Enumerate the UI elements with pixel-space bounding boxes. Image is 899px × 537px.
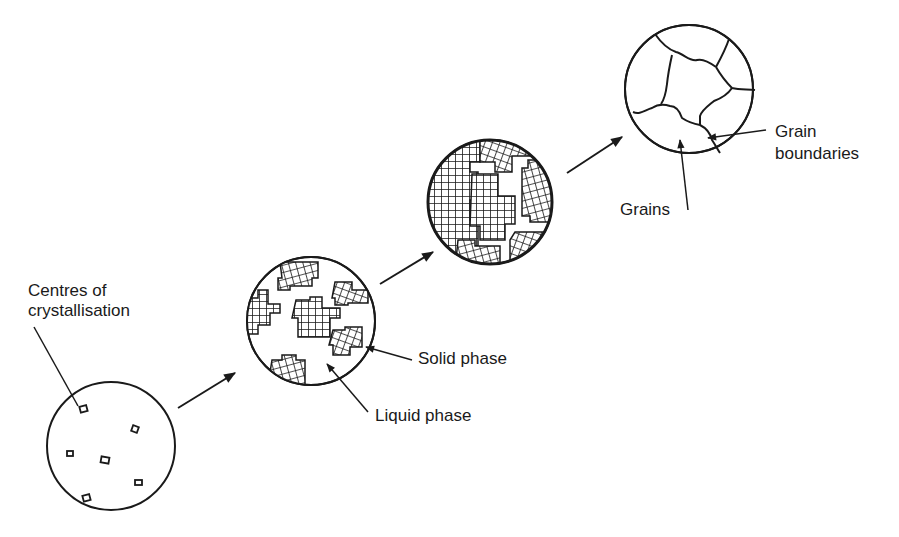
label-grains: Grains (620, 200, 670, 220)
arrow-stage1-to-2 (178, 373, 235, 408)
solid-phase-leader (366, 347, 412, 360)
stage-growth-circle (246, 257, 375, 385)
stage-impingement-circle (428, 140, 555, 270)
label-liquid-phase: Liquid phase (375, 406, 471, 426)
label-grain-line1: Grain (775, 122, 817, 142)
stage-nucleation-circle (47, 382, 175, 510)
arrow-stage3-to-4 (567, 137, 622, 173)
label-solid-phase: Solid phase (418, 349, 507, 369)
solidification-diagram (0, 0, 899, 537)
nuclei (67, 405, 142, 502)
label-centres-line1: Centres of (28, 281, 106, 301)
arrow-stage2-to-3 (380, 252, 433, 284)
label-grain-line2: boundaries (775, 144, 859, 164)
label-centres-line2: crystallisation (28, 301, 130, 321)
centres-leader (34, 327, 78, 406)
